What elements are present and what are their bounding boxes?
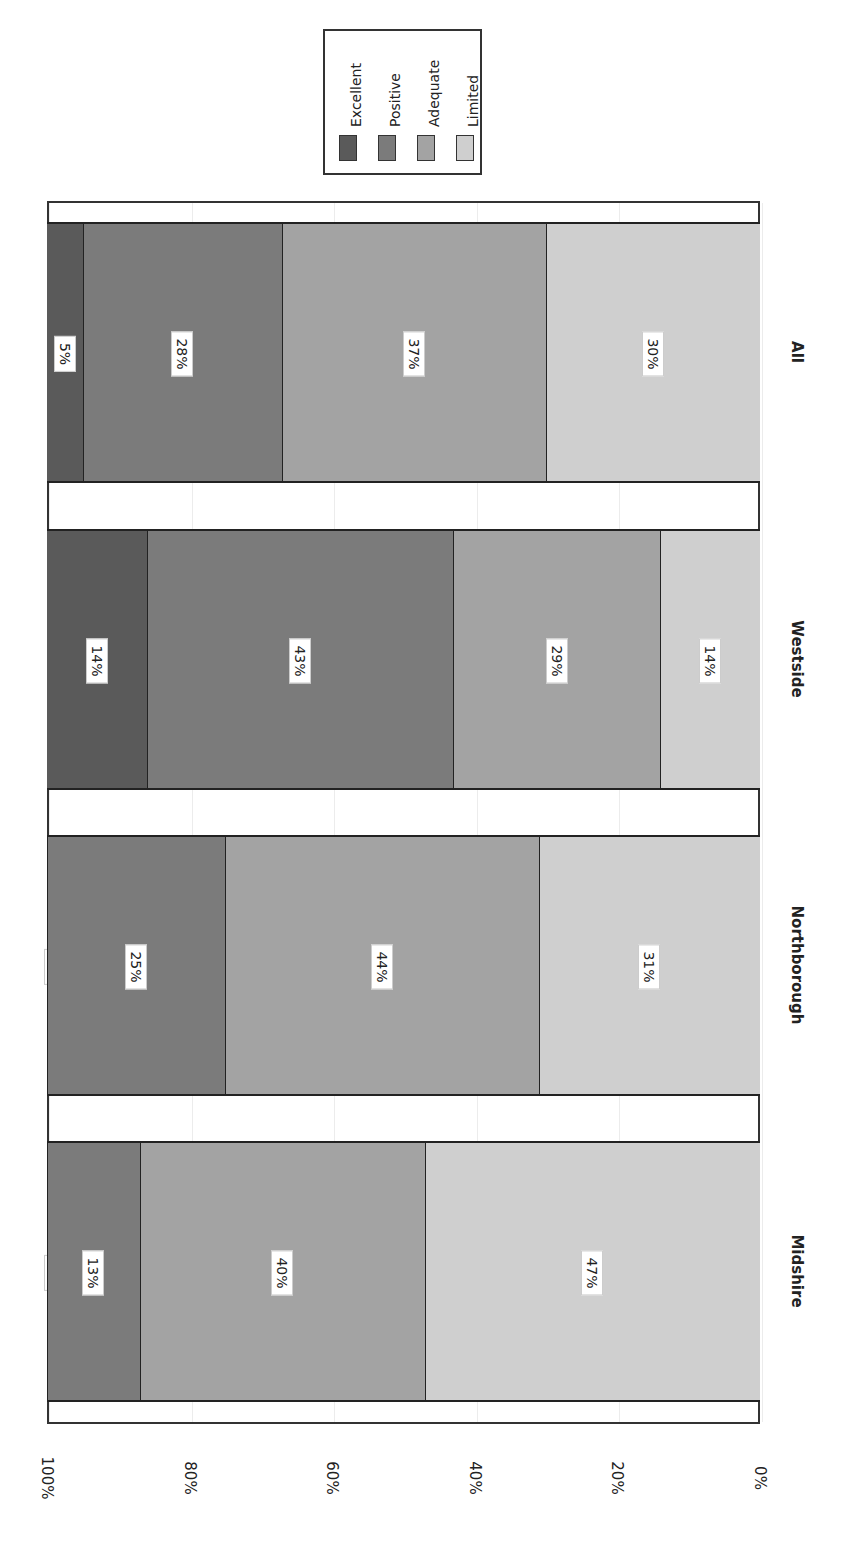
legend-swatch	[417, 135, 435, 161]
category-label: Midshire	[788, 1234, 806, 1307]
category-label: All	[788, 341, 806, 363]
data-label: 40%	[271, 1250, 293, 1295]
data-label: 29%	[546, 638, 568, 683]
data-label: 5%	[54, 336, 76, 372]
axis-tick-label: 40%	[466, 1461, 484, 1494]
axis-tick-label: 0%	[751, 1466, 769, 1490]
data-label: 31%	[638, 944, 660, 989]
legend-item-limited: Limited	[456, 31, 480, 161]
legend-swatch	[339, 135, 357, 161]
axis-tick-label: 60%	[323, 1461, 341, 1494]
bar-all: 5%28%37%30%	[47, 222, 760, 483]
bar-midshire: 0%13%40%47%	[47, 1141, 760, 1402]
data-label: 28%	[171, 331, 193, 376]
data-label: 13%	[82, 1250, 104, 1295]
axis-tick-label: 20%	[608, 1461, 626, 1494]
legend-label: Limited	[465, 75, 481, 127]
legend-label: Excellent	[348, 63, 364, 127]
data-label: 44%	[371, 944, 393, 989]
category-label: Northborough	[788, 906, 806, 1025]
gridline	[762, 203, 763, 1422]
legend-item-adequate: Adequate	[417, 31, 441, 161]
axis-tick-label: 80%	[181, 1461, 199, 1494]
bar-northborough: 0%25%44%31%	[47, 835, 760, 1096]
data-label: 30%	[642, 331, 664, 376]
data-label: 14%	[86, 638, 108, 683]
plot-area: 5%28%37%30%14%43%29%14%0%25%44%31%0%13%4…	[47, 201, 760, 1424]
data-label: 47%	[581, 1250, 603, 1295]
data-label: 43%	[289, 638, 311, 683]
data-label: 14%	[699, 638, 721, 683]
legend-label: Adequate	[426, 60, 442, 127]
chart-legend: ExcellentPositiveAdequateLimited	[323, 29, 482, 175]
axis-tick-label: 100%	[38, 1457, 56, 1500]
data-label: 25%	[125, 944, 147, 989]
legend-swatch	[456, 135, 474, 161]
legend-item-excellent: Excellent	[339, 31, 363, 161]
legend-item-positive: Positive	[378, 31, 402, 161]
bar-westside: 14%43%29%14%	[47, 529, 760, 790]
legend-label: Positive	[387, 73, 403, 127]
category-label: Westside	[788, 620, 806, 697]
legend-swatch	[378, 135, 396, 161]
data-label: 37%	[403, 331, 425, 376]
